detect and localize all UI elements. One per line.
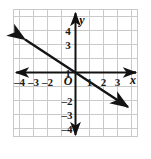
x-tick-label-neg2: –2 (41, 76, 54, 88)
y-tick-label-4: 4 (65, 25, 71, 37)
y-tick-label-neg2: –2 (61, 95, 74, 107)
y-tick-label-3: 3 (65, 39, 71, 51)
x-tick-label-neg3: –3 (27, 76, 40, 88)
origin-label: O (64, 74, 73, 88)
y-tick-label-neg4: –4 (61, 123, 74, 135)
x-tick-label-1: 1 (87, 76, 93, 88)
x-axis-name: x (129, 73, 136, 87)
x-tick-label-3: 3 (115, 76, 121, 88)
x-tick-label-neg4: –4 (13, 76, 26, 88)
y-tick-label-neg3: –3 (61, 109, 74, 121)
coordinate-plane-figure: –4 –3 –2 1 2 3 4 3 1 –2 –3 –4 O x y (0, 0, 151, 159)
y-axis-name: y (77, 13, 85, 27)
x-tick-label-2: 2 (101, 76, 107, 88)
graph-canvas: –4 –3 –2 1 2 3 4 3 1 –2 –3 –4 O x y (0, 0, 151, 159)
